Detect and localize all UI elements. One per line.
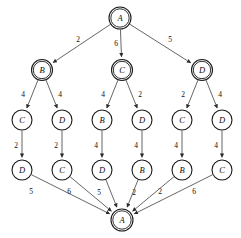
edge-weight-label: 2 — [181, 90, 185, 99]
edge-weight-label: 4 — [214, 141, 218, 150]
node-label: D — [98, 165, 106, 175]
edge-weight-label: 4 — [58, 90, 62, 99]
edge-weight-label: 2 — [158, 187, 162, 196]
edge-weight-label: 4 — [94, 141, 98, 150]
edge-weight-label: 2 — [14, 141, 18, 150]
graph-node-a-n0[interactable]: A — [109, 7, 131, 29]
graph-node-c-n4[interactable]: C — [12, 110, 32, 130]
graph-edge-n14-n16 — [133, 177, 174, 211]
node-label: B — [39, 65, 44, 75]
graph-diagram: ABCDCDBDCDDCDBBCA 265444224224444565226 — [0, 0, 241, 238]
graph-node-b-n13[interactable]: B — [132, 160, 152, 180]
edge-weight-label: 4 — [174, 141, 178, 150]
edge-weight-label: 2 — [132, 188, 136, 197]
graph-edge-n15-n16 — [134, 175, 212, 214]
graph-node-c-n2[interactable]: C — [112, 60, 133, 81]
edge-weight-label: 6 — [114, 39, 118, 48]
edge-weight-label: 4 — [134, 141, 138, 150]
graph-edge-n0-n2 — [120, 30, 121, 57]
node-label: C — [119, 65, 125, 75]
edge-weight-label: 5 — [168, 35, 172, 44]
graph-node-d-n12[interactable]: D — [92, 160, 112, 180]
node-label: C — [19, 115, 25, 125]
edge-weight-label: 4 — [101, 90, 105, 99]
graph-node-d-n10[interactable]: D — [12, 160, 32, 180]
graph-edge-n0-n1 — [53, 24, 110, 62]
graph-edge-n2-n6 — [107, 80, 118, 108]
graph-node-d-n7[interactable]: D — [132, 110, 152, 130]
graph-edge-n0-n3 — [130, 24, 191, 63]
graph-node-d-n5[interactable]: D — [52, 110, 72, 130]
node-label: A — [118, 215, 125, 225]
node-label: D — [198, 65, 206, 75]
node-label: B — [139, 165, 144, 175]
edge-weight-label: 4 — [21, 90, 25, 99]
graph-node-d-n3[interactable]: D — [192, 60, 213, 81]
graph-node-b-n1[interactable]: B — [32, 60, 53, 81]
graph-node-c-n8[interactable]: C — [172, 110, 192, 130]
graph-edge-n1-n5 — [46, 80, 57, 108]
graph-edge-n12-n16 — [106, 180, 117, 207]
node-label: A — [116, 13, 123, 23]
edge-weight-label: 2 — [76, 35, 80, 44]
edge-weight-label: 4 — [218, 90, 222, 99]
graph-node-a-n16[interactable]: A — [111, 209, 133, 231]
edge-weight-label: 5 — [29, 187, 33, 196]
edge-weight-label: 2 — [138, 90, 142, 99]
graph-edge-n3-n8 — [187, 80, 198, 108]
graph-edge-n11-n16 — [70, 177, 111, 211]
nodes-layer: ABCDCDBDCDDCDBBCA — [12, 7, 232, 231]
edge-weight-label: 2 — [54, 141, 58, 150]
node-label: D — [138, 115, 146, 125]
node-label: D — [218, 115, 226, 125]
graph-edge-n2-n7 — [126, 80, 137, 108]
node-label: C — [59, 165, 65, 175]
graph-node-c-n15[interactable]: C — [212, 160, 232, 180]
node-label: D — [58, 115, 66, 125]
graph-node-b-n14[interactable]: B — [172, 160, 192, 180]
edge-weight-label: 5 — [97, 188, 101, 197]
graph-edge-n3-n9 — [206, 80, 217, 108]
node-label: C — [219, 165, 225, 175]
diagram-canvas: ABCDCDBDCDDCDBBCA 265444224224444565226 — [0, 0, 241, 238]
node-label: B — [99, 115, 104, 125]
edge-weight-label: 6 — [67, 187, 71, 196]
node-label: C — [179, 115, 185, 125]
edge-weight-label: 6 — [192, 187, 196, 196]
node-label: D — [18, 165, 26, 175]
graph-edge-n1-n4 — [27, 80, 38, 108]
graph-node-b-n6[interactable]: B — [92, 110, 112, 130]
graph-node-c-n11[interactable]: C — [52, 160, 72, 180]
graph-node-d-n9[interactable]: D — [212, 110, 232, 130]
node-label: B — [179, 165, 184, 175]
